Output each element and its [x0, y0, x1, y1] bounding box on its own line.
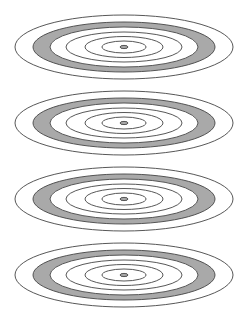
center-dot — [120, 121, 128, 124]
ellipse-group-4 — [15, 243, 233, 307]
center-dot — [120, 45, 128, 48]
center-dot — [120, 273, 128, 276]
ellipse-group-3 — [15, 167, 233, 231]
ellipse-stack-svg — [0, 0, 247, 317]
ellipse-group-1 — [15, 15, 233, 79]
center-dot — [120, 197, 128, 200]
ellipse-group-2 — [15, 91, 233, 155]
concentric-ellipses-figure — [0, 0, 247, 317]
